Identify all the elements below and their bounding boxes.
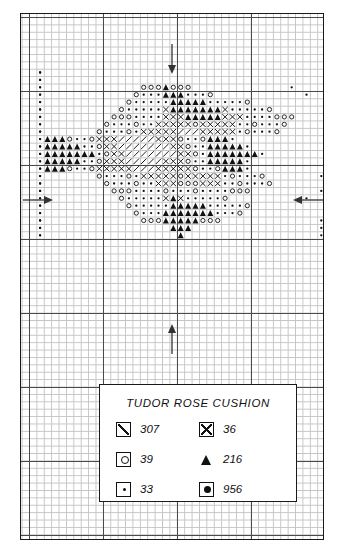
right-center-arrow bbox=[293, 193, 323, 207]
stitch-circle-icon bbox=[186, 181, 190, 185]
stitch-dot-icon bbox=[143, 123, 145, 125]
stitch-slash-icon bbox=[141, 136, 146, 141]
legend-entry-33: 33 bbox=[116, 478, 199, 500]
stitch-dot-icon bbox=[39, 108, 41, 110]
stitch-dot-icon bbox=[246, 175, 248, 177]
stitch-slash-icon bbox=[126, 151, 131, 156]
stitch-triangle-icon bbox=[185, 99, 191, 105]
stitch-circle-icon bbox=[275, 130, 279, 134]
stitch-dot-icon bbox=[217, 190, 219, 192]
stitch-circle-icon bbox=[238, 211, 242, 215]
stitch-dot-icon bbox=[113, 123, 115, 125]
stitch-dot-icon bbox=[39, 212, 41, 214]
stitch-dot-icon bbox=[239, 101, 241, 103]
stitch-circle-icon bbox=[282, 115, 286, 119]
stitch-triangle-icon bbox=[170, 218, 176, 224]
stitch-dot-icon bbox=[254, 182, 256, 184]
bottom-center-arrow bbox=[165, 324, 179, 354]
stitch-dot-icon bbox=[157, 205, 159, 207]
stitch-dot-icon bbox=[194, 145, 196, 147]
stitch-triangle-icon bbox=[74, 144, 80, 150]
stitch-dot-icon bbox=[268, 123, 270, 125]
stitch-dot-icon bbox=[268, 116, 270, 118]
stitch-dot-icon bbox=[39, 168, 41, 170]
stitch-circle-icon bbox=[290, 115, 294, 119]
stitch-triangle-icon bbox=[230, 166, 236, 172]
stitch-dot-icon bbox=[224, 175, 226, 177]
stitch-triangle-icon bbox=[215, 144, 221, 150]
stitch-dot-icon bbox=[128, 197, 130, 199]
stitch-circle-icon bbox=[105, 152, 109, 156]
stitch-triangle-icon bbox=[178, 92, 184, 98]
stitch-circle-icon bbox=[193, 181, 197, 185]
stitch-circle-icon bbox=[179, 174, 183, 178]
stitch-dot-icon bbox=[202, 190, 204, 192]
stitch-slash-icon bbox=[148, 159, 153, 164]
stitch-dot-icon bbox=[113, 182, 115, 184]
stitch-dot-icon bbox=[209, 190, 211, 192]
stitch-dot-icon bbox=[320, 219, 322, 221]
stitch-slash-icon bbox=[134, 151, 139, 156]
stitch-slash-icon bbox=[156, 151, 161, 156]
stitch-dot-icon bbox=[39, 116, 41, 118]
stitch-dot-icon bbox=[120, 123, 122, 125]
stitch-triangle-icon bbox=[215, 158, 221, 164]
boxed-cross-icon bbox=[199, 422, 214, 437]
stitch-circle-icon bbox=[134, 211, 138, 215]
stitch-dot-icon bbox=[143, 212, 145, 214]
legend-entry-956: 956 bbox=[199, 478, 282, 500]
stitch-dot-icon bbox=[224, 101, 226, 103]
stitch-dot-icon bbox=[276, 123, 278, 125]
stitch-dot-icon bbox=[246, 168, 248, 170]
stitch-dot-icon bbox=[135, 205, 137, 207]
stitch-dot-icon bbox=[261, 153, 263, 155]
stitch-triangle-icon bbox=[200, 210, 206, 216]
stitch-dot-icon bbox=[231, 205, 233, 207]
stitch-dot-icon bbox=[246, 182, 248, 184]
stitch-triangle-icon bbox=[52, 158, 58, 164]
stitch-dot-icon bbox=[143, 116, 145, 118]
stitch-dot-icon bbox=[165, 205, 167, 207]
stitch-dot-icon bbox=[150, 212, 152, 214]
stitch-dot-icon bbox=[246, 123, 248, 125]
stitch-slash-icon bbox=[163, 151, 168, 156]
stitch-dot-icon bbox=[91, 160, 93, 162]
stitch-dot-icon bbox=[39, 145, 41, 147]
stitch-slash-icon bbox=[134, 159, 139, 164]
stitch-slash-icon bbox=[163, 144, 168, 149]
stitch-triangle-icon bbox=[178, 99, 184, 105]
stitch-dot-icon bbox=[128, 123, 130, 125]
stitch-slash-icon bbox=[134, 144, 139, 149]
stitch-circle-icon bbox=[238, 189, 242, 193]
legend-entry-307: 307 bbox=[116, 418, 199, 440]
stitch-circle-icon bbox=[186, 159, 190, 163]
stitch-triangle-icon bbox=[193, 114, 199, 120]
stitch-triangle-icon bbox=[67, 144, 73, 150]
stitch-dot-icon bbox=[320, 190, 322, 192]
stitch-circle-icon bbox=[134, 93, 138, 97]
stitch-triangle-icon bbox=[45, 136, 51, 142]
stitch-triangle-icon bbox=[215, 151, 221, 157]
stitch-triangle-icon bbox=[178, 232, 184, 238]
stitch-triangle-icon bbox=[170, 99, 176, 105]
stitch-dot-icon bbox=[202, 94, 204, 96]
boxed-filled-dot-icon bbox=[199, 482, 214, 497]
stitch-triangle-icon bbox=[74, 158, 80, 164]
stitch-circle-icon bbox=[245, 189, 249, 193]
stitch-circle-icon bbox=[179, 181, 183, 185]
stitch-triangle-icon bbox=[222, 158, 228, 164]
stitch-dot-icon bbox=[39, 94, 41, 96]
stitch-dot-icon bbox=[39, 131, 41, 133]
stitch-triangle-icon bbox=[45, 158, 51, 164]
stitch-circle-icon bbox=[127, 115, 131, 119]
stitch-dot-icon bbox=[143, 108, 145, 110]
stitch-dot-icon bbox=[254, 175, 256, 177]
stitch-dot-icon bbox=[157, 101, 159, 103]
stitch-dot-icon bbox=[209, 168, 211, 170]
stitch-circle-icon bbox=[193, 122, 197, 126]
stitch-triangle-icon bbox=[170, 107, 176, 113]
stitch-dot-icon bbox=[39, 190, 41, 192]
stitch-dot-icon bbox=[180, 190, 182, 192]
stitch-slash-icon bbox=[178, 129, 183, 134]
stitch-triangle-icon bbox=[170, 203, 176, 209]
